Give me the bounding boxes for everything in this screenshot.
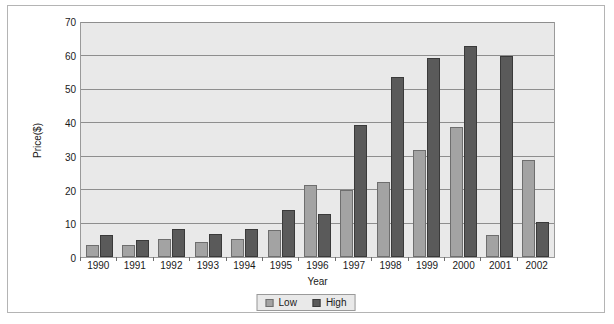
y-axis-tick-label: 40 xyxy=(65,118,76,129)
y-axis-tick-label: 30 xyxy=(65,151,76,162)
bar-low-1993 xyxy=(195,242,208,257)
y-axis-ticks: 010203040506070 xyxy=(44,22,76,258)
bar-group xyxy=(227,23,263,257)
bar-group xyxy=(336,23,372,257)
legend-swatch-low xyxy=(266,299,274,307)
bar-high-1993 xyxy=(209,234,222,257)
bar-high-1997 xyxy=(354,125,367,257)
bar-high-1990 xyxy=(100,235,113,257)
plot-wrapper xyxy=(80,22,555,258)
x-axis-tick-label: 1998 xyxy=(372,260,409,271)
y-axis-label: Price($) xyxy=(30,22,44,258)
x-axis-ticks: 1990199119921993199419951996199719981999… xyxy=(80,260,555,271)
bar-low-1997 xyxy=(340,190,353,257)
x-axis-tick-label: 1993 xyxy=(190,260,227,271)
bar-high-1995 xyxy=(282,210,295,257)
y-axis-tick-label: 60 xyxy=(65,50,76,61)
bar-low-2001 xyxy=(486,235,499,257)
bar-group xyxy=(481,23,517,257)
y-axis-tick-label: 70 xyxy=(65,17,76,28)
legend: Low High xyxy=(257,294,356,311)
x-axis-tick-label: 1992 xyxy=(153,260,190,271)
bars-layer xyxy=(81,23,554,257)
bar-group xyxy=(518,23,554,257)
x-axis-tick-label: 1996 xyxy=(299,260,336,271)
bar-high-2002 xyxy=(536,222,549,257)
bar-low-1996 xyxy=(304,185,317,257)
x-axis-tick-label: 1994 xyxy=(226,260,263,271)
legend-item-low: Low xyxy=(266,297,297,308)
x-axis-label: Year xyxy=(80,276,555,287)
bar-low-1990 xyxy=(86,245,99,257)
bar-group xyxy=(445,23,481,257)
legend-swatch-high xyxy=(313,299,321,307)
bar-group xyxy=(409,23,445,257)
x-axis-tick-label: 2002 xyxy=(518,260,555,271)
plot-area xyxy=(80,22,555,258)
bar-group xyxy=(154,23,190,257)
chart-frame: Price($) 010203040506070 199019911992199… xyxy=(7,5,605,313)
y-axis-label-text: Price($) xyxy=(32,122,43,157)
bar-high-1994 xyxy=(245,229,258,257)
bar-high-1996 xyxy=(318,214,331,257)
bar-low-1994 xyxy=(231,239,244,257)
y-axis-tick-label: 20 xyxy=(65,185,76,196)
y-axis-tick-label: 10 xyxy=(65,219,76,230)
bar-high-1998 xyxy=(391,77,404,258)
legend-label-high: High xyxy=(326,297,347,308)
x-axis-tick-label: 1991 xyxy=(117,260,154,271)
bar-high-2000 xyxy=(464,46,477,257)
bar-low-1999 xyxy=(413,150,426,257)
legend-item-high: High xyxy=(313,297,347,308)
bar-low-1992 xyxy=(158,239,171,257)
x-axis-tick-label: 1990 xyxy=(80,260,117,271)
x-axis-tick-label: 1997 xyxy=(336,260,373,271)
y-axis-tick-label: 50 xyxy=(65,84,76,95)
bar-group xyxy=(117,23,153,257)
bar-group xyxy=(299,23,335,257)
bar-high-1991 xyxy=(136,240,149,257)
bar-group xyxy=(263,23,299,257)
bar-high-1992 xyxy=(172,229,185,257)
y-axis-tick-label: 0 xyxy=(70,253,76,264)
bar-high-1999 xyxy=(427,58,440,257)
x-axis-tick-label: 1995 xyxy=(263,260,300,271)
bar-low-2000 xyxy=(450,127,463,257)
bar-low-2002 xyxy=(522,160,535,257)
bar-group xyxy=(372,23,408,257)
bar-low-1991 xyxy=(122,245,135,257)
x-axis-tick-label: 2000 xyxy=(445,260,482,271)
bar-group xyxy=(81,23,117,257)
x-axis-tick-label: 2001 xyxy=(482,260,519,271)
x-axis-tick-label: 1999 xyxy=(409,260,446,271)
legend-label-low: Low xyxy=(279,297,297,308)
bar-high-2001 xyxy=(500,56,513,257)
bar-group xyxy=(190,23,226,257)
bar-low-1995 xyxy=(268,230,281,257)
bar-low-1998 xyxy=(377,182,390,257)
